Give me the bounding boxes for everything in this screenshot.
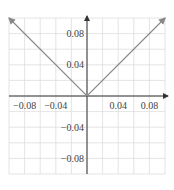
x-tick-label: 0.04 <box>109 100 127 111</box>
y-tick-label: −0.04 <box>61 122 84 133</box>
y-tick-label: 0.04 <box>67 59 85 70</box>
x-tick-label: 0.08 <box>141 100 159 111</box>
y-tick-label: 0.08 <box>67 28 85 39</box>
plot-area: −0.08−0.040.040.080.080.04−0.04−0.08 <box>0 0 174 190</box>
y-tick-label: −0.08 <box>61 153 84 164</box>
x-tick-label: −0.04 <box>44 100 67 111</box>
abs-value-graph: −0.08−0.040.040.080.080.04−0.04−0.08 <box>0 0 174 190</box>
x-tick-label: −0.08 <box>13 100 36 111</box>
